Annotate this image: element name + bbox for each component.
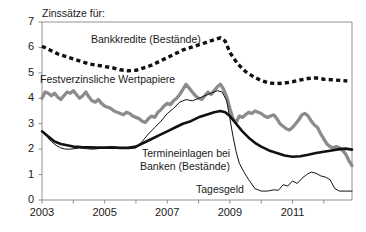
series-annotation-3: Banken (Bestände) [140, 160, 230, 172]
y-tick-2: 2 [20, 142, 34, 154]
y-tick-0: 0 [20, 193, 34, 205]
interest-rates-chart: Zinssätze für: 01234567 2003200520072009… [0, 0, 366, 232]
x-tick-2005: 2005 [88, 206, 122, 218]
series-annotation-4: Tagesgeld [196, 183, 244, 195]
series-annotation-0: Bankkredite (Bestände) [91, 33, 201, 45]
x-tick-2009: 2009 [213, 206, 247, 218]
series-annotation-1: Festverzinsliche Wertpapiere [40, 73, 175, 85]
x-tick-2007: 2007 [150, 206, 184, 218]
series-annotation-2: Termineinlagen bei [142, 147, 230, 159]
y-tick-4: 4 [20, 91, 34, 103]
y-tick-6: 6 [20, 40, 34, 52]
x-tick-2011: 2011 [276, 206, 310, 218]
y-tick-5: 5 [20, 66, 34, 78]
x-tick-2003: 2003 [25, 206, 59, 218]
y-tick-7: 7 [20, 15, 34, 27]
series-line-3 [42, 91, 352, 191]
y-tick-1: 1 [20, 168, 34, 180]
y-tick-3: 3 [20, 117, 34, 129]
